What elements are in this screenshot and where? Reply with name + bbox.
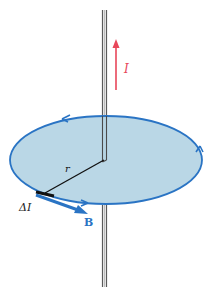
ampere-law-diagram: I r ΔI B [0, 0, 213, 296]
field-label: B [84, 216, 93, 229]
current-label: I [123, 62, 129, 76]
current-arrow [113, 39, 120, 90]
current-element-label: ΔI [18, 201, 32, 214]
wire-lower [102, 205, 107, 287]
